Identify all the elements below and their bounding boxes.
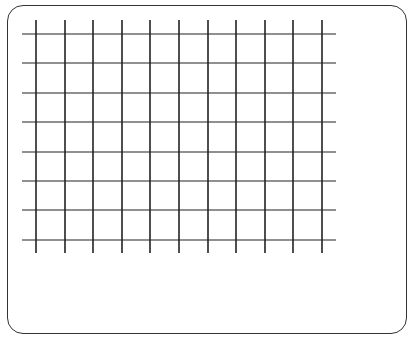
line-grid	[0, 0, 416, 342]
